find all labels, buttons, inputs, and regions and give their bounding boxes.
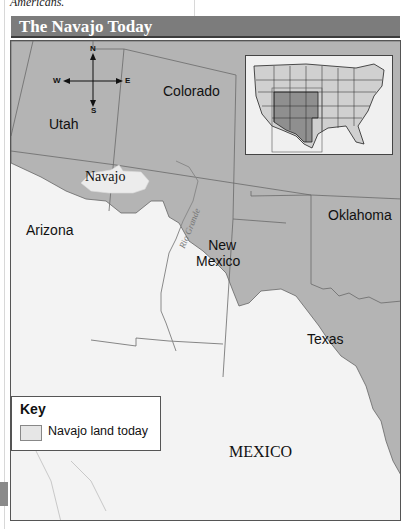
map-key: Key Navajo land today <box>11 396 161 451</box>
inset-us-locator-map <box>245 55 393 155</box>
label-texas: Texas <box>307 331 344 347</box>
navajo-land-swatch <box>20 425 42 441</box>
label-arizona: Arizona <box>26 222 73 238</box>
compass-rose: N S E W <box>53 45 133 115</box>
label-navajo: Navajo <box>85 169 125 185</box>
label-colorado: Colorado <box>163 83 220 99</box>
key-label-navajo-land: Navajo land today <box>48 424 148 438</box>
map-title-bar: The Navajo Today <box>11 16 400 38</box>
page-margin-rule <box>4 0 5 529</box>
map-title: The Navajo Today <box>19 17 152 37</box>
page-side-tab <box>0 482 8 506</box>
compass-arrows-icon <box>53 45 133 115</box>
inset-us-outline <box>246 56 392 154</box>
label-new-mexico: New Mexico <box>196 237 240 269</box>
column-divider <box>194 0 195 16</box>
label-utah: Utah <box>49 116 79 132</box>
compass-east: E <box>125 76 130 85</box>
compass-west: W <box>53 76 61 85</box>
label-mexico: MEXICO <box>229 443 292 461</box>
compass-north: N <box>90 44 96 53</box>
key-title: Key <box>20 401 46 417</box>
label-oklahoma: Oklahoma <box>328 207 392 223</box>
compass-south: S <box>91 106 96 115</box>
cutoff-body-text: Americans. <box>10 0 64 10</box>
